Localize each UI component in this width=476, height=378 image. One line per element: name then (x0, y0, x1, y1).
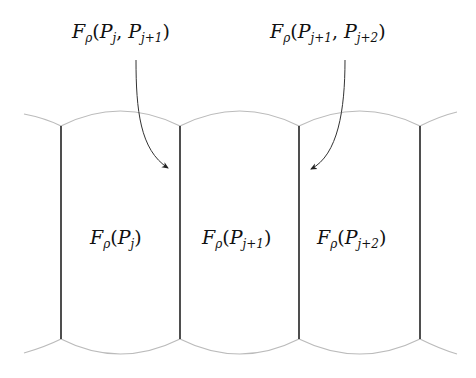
diagram-canvas: Fρ(Pj, Pj+1) Fρ(Pj+1, Pj+2) Fρ(Pj) Fρ(Pj… (0, 0, 476, 378)
top-arc-left-edge (24, 114, 61, 126)
cell-label-j2: Fρ(Pj+2) (317, 228, 386, 247)
top-arc-cell-j2 (299, 111, 420, 126)
annotation-flux-j-j1: Fρ(Pj, Pj+1) (72, 22, 170, 41)
bottom-arc-cell-j2 (299, 339, 420, 354)
bottom-arcs (24, 339, 457, 354)
cell-label-j1: Fρ(Pj+1) (202, 228, 271, 247)
bottom-arc-left-edge (24, 339, 61, 353)
diagram-graphics (0, 0, 476, 378)
bottom-arc-cell-j (61, 339, 180, 354)
top-arc-right-edge (420, 112, 457, 126)
top-arcs (24, 111, 457, 126)
bottom-arc-cell-j1 (180, 339, 299, 354)
cell-label-j: Fρ(Pj) (90, 228, 142, 247)
top-arc-cell-j1 (180, 111, 299, 126)
bottom-arc-right-edge (420, 339, 457, 354)
annotation-flux-j1-j2: Fρ(Pj+1, Pj+2) (270, 22, 386, 41)
arrow-flux-j-j1 (136, 60, 168, 168)
top-arc-cell-j (61, 111, 180, 126)
